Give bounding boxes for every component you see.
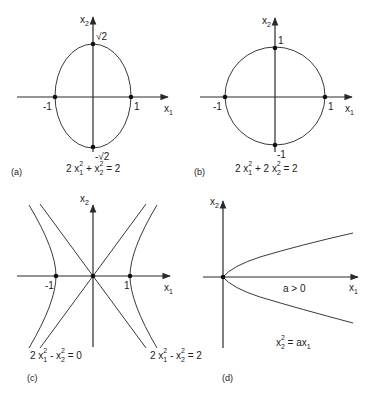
point <box>91 145 96 150</box>
axis-label-x2: x2 <box>262 15 271 28</box>
axis-label-x2: x2 <box>80 14 89 27</box>
panel-a: x2 x1 -1 1 √2 -√2 2 x12 + x22 = 2 (a) <box>11 14 173 177</box>
axis-label-x1: x1 <box>345 103 354 116</box>
equation-b: 2 x12 + 2 x22 = 2 <box>235 160 298 176</box>
tick-label: 1 <box>278 35 284 46</box>
tick-label: 1 <box>134 101 140 112</box>
panel-tag-a: (a) <box>11 167 22 177</box>
figure-canvas: x2 x1 -1 1 √2 -√2 2 x12 + x22 = 2 (a) x2… <box>0 0 376 396</box>
equation-c-asymptotes: 2 x12 - x22 = 0 <box>30 347 82 363</box>
axis-label-x1: x1 <box>164 103 173 116</box>
tick-label: √2 <box>96 31 107 42</box>
axis-label-x1: x1 <box>164 282 173 295</box>
parabola-curve <box>223 233 353 323</box>
tick-label: -1 <box>45 280 54 291</box>
equation-a: 2 x12 + x22 = 2 <box>66 160 121 176</box>
axis-label-x2: x2 <box>80 193 89 206</box>
panel-tag-d: (d) <box>222 373 233 383</box>
point <box>223 95 228 100</box>
point <box>91 42 96 47</box>
point <box>54 274 59 279</box>
point <box>129 95 134 100</box>
point <box>53 95 58 100</box>
panel-d: x2 x1 a > 0 x22 = ax1 (d) <box>203 196 358 383</box>
point <box>128 274 133 279</box>
panel-tag-c: (c) <box>27 373 38 383</box>
tick-label: -1 <box>213 101 222 112</box>
equation-d: x22 = ax1 <box>276 334 311 350</box>
tick-label: 1 <box>124 280 130 291</box>
panel-b: x2 x1 -1 1 1 -1 2 x12 + 2 x22 = 2 (b) <box>194 15 354 177</box>
panel-tag-b: (b) <box>194 167 205 177</box>
axis-label-x1: x1 <box>349 282 358 295</box>
tick-label: -1 <box>43 101 52 112</box>
point <box>91 274 96 279</box>
tick-label: 1 <box>328 101 334 112</box>
point <box>323 95 328 100</box>
panel-c: x2 x1 -1 1 2 x12 - x22 = 0 2 x12 - x22 =… <box>17 193 202 383</box>
point <box>221 275 226 280</box>
condition-label: a > 0 <box>283 283 306 294</box>
equation-c-hyperbola: 2 x12 - x22 = 2 <box>150 347 202 363</box>
point <box>273 46 278 51</box>
axis-label-x2: x2 <box>210 196 219 209</box>
tick-label: -1 <box>277 149 286 160</box>
point <box>273 143 278 148</box>
